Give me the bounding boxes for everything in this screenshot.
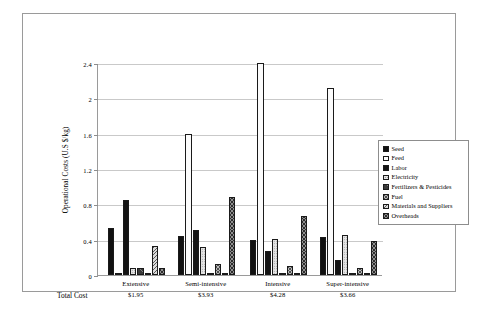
y-axis-tick: [94, 241, 98, 242]
bar: [272, 239, 278, 275]
x-axis-category-label: Extensive: [122, 280, 149, 287]
legend-label: Labor: [392, 165, 407, 171]
legend-label: Overheads: [392, 213, 419, 219]
bar-group: [250, 64, 311, 275]
y-axis-tick-label: 2: [89, 96, 92, 103]
y-axis-tick-label: 2.4: [83, 61, 92, 68]
total-cost-row-label: Total Cost: [57, 291, 87, 300]
total-cost-value: $3.66: [340, 291, 355, 298]
legend-item[interactable]: Fertilizers & Pesticides: [383, 182, 465, 192]
bar: [301, 216, 307, 275]
y-axis-tick: [94, 170, 98, 171]
bar-group: [320, 64, 381, 275]
legend-swatch-icon: [383, 156, 389, 162]
bar: [229, 197, 235, 275]
y-axis-tick: [94, 64, 98, 65]
legend-label: Seed: [392, 146, 404, 152]
y-axis-tick-label: 1.2: [83, 167, 92, 174]
legend-label: Fuel: [392, 194, 403, 200]
bar: [250, 240, 256, 275]
y-axis-tick: [94, 276, 98, 277]
chart-legend: SeedFeedLaborElectricityFertilizers & Pe…: [378, 140, 469, 225]
legend-item[interactable]: Materials and Suppliers: [383, 202, 465, 212]
bar: [207, 273, 213, 275]
legend-label: Materials and Suppliers: [392, 203, 453, 209]
bar: [335, 260, 341, 275]
legend-item[interactable]: Feed: [383, 154, 465, 164]
bar: [178, 236, 184, 275]
bar: [349, 273, 355, 275]
total-cost-value: $4.28: [270, 291, 285, 298]
y-axis-title: Operational Costs (U.S $/kg): [62, 127, 70, 214]
bar: [193, 230, 199, 275]
total-cost-value: $3.93: [198, 291, 213, 298]
y-axis-tick-label: 0: [89, 273, 92, 280]
bar: [279, 273, 285, 275]
bar: [364, 273, 370, 275]
chart-frame: Operational Costs (U.S $/kg) 00.40.81.21…: [22, 13, 456, 292]
bar: [145, 273, 151, 275]
bar: [222, 273, 228, 275]
bar: [123, 200, 129, 275]
y-axis-tick: [94, 135, 98, 136]
bar: [357, 268, 363, 275]
y-axis-tick: [94, 205, 98, 206]
bar: [371, 241, 377, 275]
bar: [137, 268, 143, 275]
y-axis-tick-label: 0.8: [83, 202, 92, 209]
legend-item[interactable]: Labor: [383, 163, 465, 173]
x-axis-category-label: Super-intensive: [326, 280, 369, 287]
legend-swatch-icon: [383, 184, 389, 190]
legend-item[interactable]: Seed: [383, 144, 465, 154]
bar: [294, 273, 300, 275]
legend-swatch-icon: [383, 146, 389, 152]
legend-item[interactable]: Fuel: [383, 192, 465, 202]
legend-label: Electricity: [392, 174, 419, 180]
bar-group: [108, 64, 169, 275]
bar: [265, 251, 271, 275]
bar: [320, 237, 326, 275]
legend-item[interactable]: Electricity: [383, 173, 465, 183]
legend-item[interactable]: Overheads: [383, 211, 465, 221]
plot-area: 00.40.81.21.622.4: [97, 64, 382, 276]
bar: [185, 134, 191, 275]
y-axis-tick-label: 1.6: [83, 131, 92, 138]
y-axis-tick-label: 0.4: [83, 237, 92, 244]
bar: [115, 273, 121, 275]
x-axis-category-label: Semi-intensive: [185, 280, 226, 287]
legend-swatch-icon: [383, 165, 389, 171]
legend-swatch-icon: [383, 204, 389, 210]
y-axis-tick: [94, 99, 98, 100]
bar-group: [178, 64, 239, 275]
legend-label: Feed: [392, 155, 404, 161]
bar: [287, 266, 293, 275]
bar: [108, 228, 114, 275]
bar: [130, 268, 136, 275]
bar: [342, 235, 348, 275]
bar: [152, 246, 158, 275]
chart-page: Operational Costs (U.S $/kg) 00.40.81.21…: [0, 0, 478, 320]
legend-swatch-icon: [383, 213, 389, 219]
x-axis-category-label: Intensive: [265, 280, 290, 287]
total-cost-value: $1.95: [128, 291, 143, 298]
bar: [327, 88, 333, 275]
bar: [257, 63, 263, 275]
bar: [200, 247, 206, 275]
legend-label: Fertilizers & Pesticides: [392, 184, 452, 190]
bar: [215, 264, 221, 275]
legend-swatch-icon: [383, 194, 389, 200]
legend-swatch-icon: [383, 175, 389, 181]
bar: [159, 268, 165, 275]
